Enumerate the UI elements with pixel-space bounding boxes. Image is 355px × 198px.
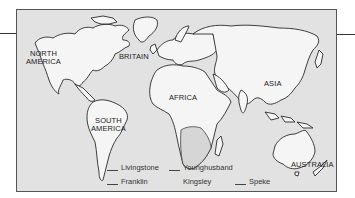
australia-label: AUSTRALIA xyxy=(291,161,334,169)
legend-item-franklin: Franklin xyxy=(107,177,148,186)
arctic-islands xyxy=(91,16,117,24)
legend-item-kingsley: Kingsley xyxy=(169,177,211,186)
tasmania xyxy=(295,172,299,176)
legend-label-livingstone: Livingstone xyxy=(121,163,159,172)
britain-island xyxy=(150,44,157,54)
greenland xyxy=(133,17,157,42)
legend-line-speke xyxy=(235,184,246,185)
central-america xyxy=(75,84,95,101)
africa-label: AFRICA xyxy=(169,94,197,102)
legend-line-younghusband xyxy=(169,170,180,171)
legend-label-kingsley: Kingsley xyxy=(183,177,211,186)
world-map: NORTH AMERICA BRITAIN AFRICA ASIA SOUTH … xyxy=(16,9,337,192)
legend-line-franklin xyxy=(107,184,118,185)
right-rule-line xyxy=(336,34,355,35)
madagascar xyxy=(215,136,223,156)
asia-label: ASIA xyxy=(264,80,282,88)
legend-label-franklin: Franklin xyxy=(121,177,148,186)
left-rule-line xyxy=(0,33,17,34)
legend-label-speke: Speke xyxy=(249,177,270,186)
legend-label-younghusband: Younghusband xyxy=(183,163,233,172)
legend-line-livingstone xyxy=(107,170,118,171)
legend-item-livingstone: Livingstone xyxy=(107,163,159,172)
japan xyxy=(315,50,323,68)
legend-item-younghusband: Younghusband xyxy=(169,163,233,172)
britain-label: BRITAIN xyxy=(119,53,149,61)
legend-item-speke: Speke xyxy=(235,177,270,186)
legend-line-kingsley xyxy=(169,184,180,185)
south-america-label-line2: AMERICA xyxy=(91,125,126,133)
north-america-label-line2: AMERICA xyxy=(26,58,61,66)
southeast-asia-islands xyxy=(265,112,313,128)
europe-landmass xyxy=(157,31,217,65)
north-america-label: NORTH AMERICA xyxy=(26,50,61,66)
south-america-label: SOUTH AMERICA xyxy=(91,117,126,133)
